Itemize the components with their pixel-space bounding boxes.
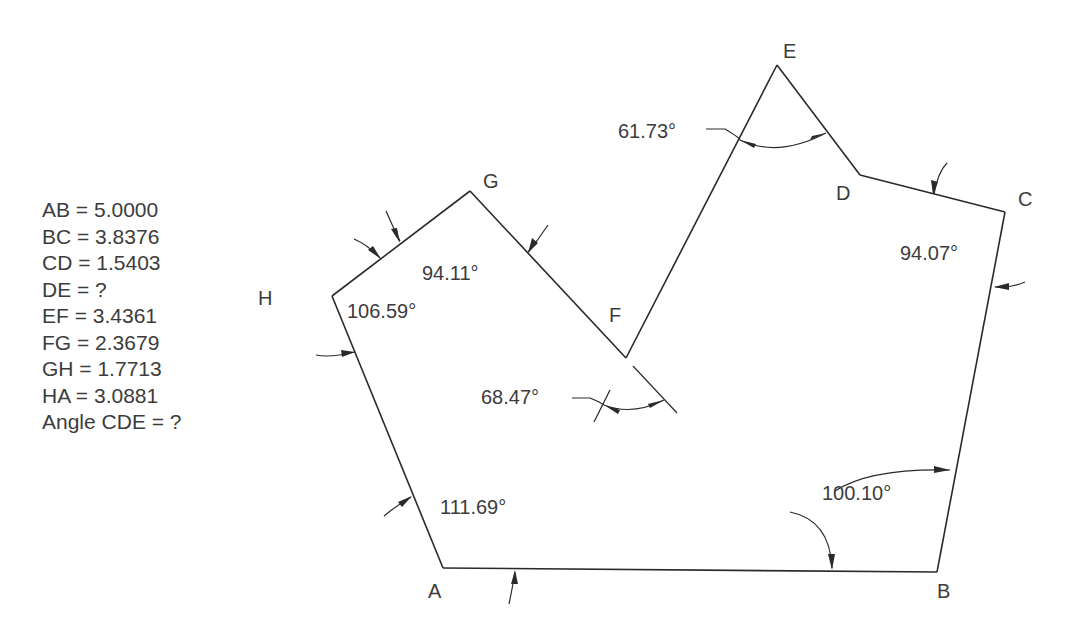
arc-e bbox=[706, 129, 826, 148]
angle-g: 94.11° bbox=[422, 262, 479, 284]
polygon-diagram: A B C D E F G H 111.69° 100.10° 94.07° 6… bbox=[0, 0, 1076, 634]
edge-bc bbox=[937, 212, 1005, 572]
angle-h: 106.59° bbox=[347, 300, 416, 322]
angle-b: 100.10° bbox=[822, 482, 891, 504]
edge-ef bbox=[626, 65, 777, 358]
arrowhead-gh1-icon bbox=[391, 228, 400, 243]
vertex-f: F bbox=[609, 304, 621, 326]
arrowhead-ab-icon bbox=[511, 570, 518, 584]
angle-e: 61.73° bbox=[618, 120, 676, 142]
vertex-b: B bbox=[937, 580, 950, 602]
angle-c: 94.07° bbox=[900, 242, 958, 264]
arrowhead-ha1-icon bbox=[341, 350, 355, 357]
angle-labels: 111.69° 100.10° 94.07° 61.73° 68.47° 94.… bbox=[347, 120, 958, 518]
edge-fg bbox=[470, 191, 626, 358]
extension-gf bbox=[633, 366, 677, 413]
edge-ab bbox=[443, 568, 937, 572]
arrowhead-b2-icon bbox=[828, 554, 835, 570]
arrowhead-ha2-icon bbox=[398, 496, 412, 507]
arc-b-leader bbox=[790, 512, 832, 568]
arrowhead-e1-icon bbox=[740, 140, 756, 148]
angle-f: 68.47° bbox=[481, 386, 539, 408]
vertex-h: H bbox=[258, 287, 272, 309]
angle-a: 111.69° bbox=[440, 496, 506, 518]
arrowhead-b1-icon bbox=[934, 466, 950, 473]
vertex-g: G bbox=[483, 170, 499, 192]
vertex-e: E bbox=[783, 40, 796, 62]
vertex-c: C bbox=[1018, 188, 1032, 210]
arrowhead-bc-icon bbox=[994, 283, 1009, 290]
edge-de bbox=[777, 65, 860, 175]
edge-ha bbox=[332, 296, 443, 568]
edge-arrows bbox=[316, 163, 1025, 604]
arrowhead-fg-icon bbox=[528, 238, 538, 253]
vertex-d: D bbox=[836, 182, 850, 204]
angle-arcs bbox=[572, 129, 950, 570]
arrowhead-f1-icon bbox=[604, 405, 620, 414]
vertex-a: A bbox=[428, 580, 442, 602]
arrow-cd bbox=[934, 163, 947, 194]
arrowhead-f2-icon bbox=[648, 400, 664, 408]
